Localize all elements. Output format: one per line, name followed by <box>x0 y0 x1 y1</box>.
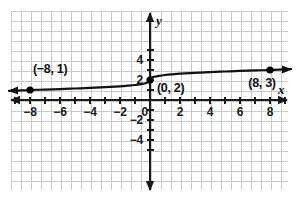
point-annotation: (0, 2) <box>157 82 184 95</box>
y-tick-label: 2 <box>137 74 143 86</box>
x-axis-label: x <box>278 83 285 96</box>
point-annotation: (8, 3) <box>248 77 275 90</box>
x-tick-label: 4 <box>207 106 213 118</box>
data-point <box>146 76 153 83</box>
x-tick-label: 6 <box>237 106 243 118</box>
y-tick-label: 4 <box>137 54 143 66</box>
y-tick-label: −4 <box>130 134 143 146</box>
x-tick-label: −6 <box>53 106 66 118</box>
data-point <box>266 66 273 73</box>
x-tick-label: −2 <box>113 106 126 118</box>
y-tick-label: −2 <box>130 114 143 126</box>
y-axis-label: y <box>156 14 162 27</box>
x-tick-label: −4 <box>83 106 96 118</box>
x-tick-label: 2 <box>177 106 183 118</box>
graph-figure: −8−6−4−20246842−2−4 (−8, 1)(0, 2)(8, 3) … <box>0 0 299 202</box>
point-annotation: (−8, 1) <box>33 63 67 76</box>
coordinate-plane <box>0 0 299 202</box>
x-tick-label: −8 <box>23 106 36 118</box>
x-tick-label: 8 <box>267 106 273 118</box>
data-point <box>26 86 33 93</box>
